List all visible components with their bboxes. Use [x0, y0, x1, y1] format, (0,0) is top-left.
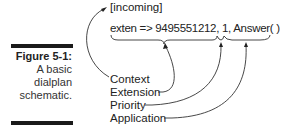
arrowhead-icon: [219, 42, 223, 47]
schematic-arrows: [0, 0, 283, 133]
arrowhead-icon: [244, 42, 248, 47]
arrowhead-icon: [101, 7, 107, 12]
